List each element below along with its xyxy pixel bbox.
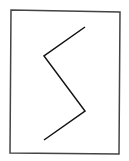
rectangle-frame	[10, 10, 120, 154]
diagram-canvas	[0, 0, 129, 161]
zigzag-line	[44, 27, 85, 140]
